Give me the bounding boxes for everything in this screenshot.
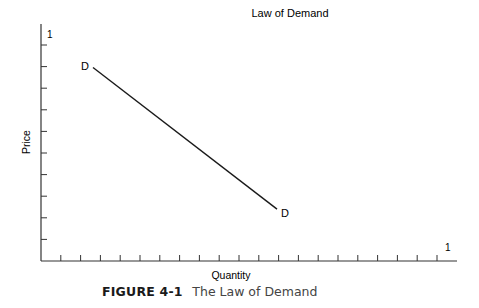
y-axis-label: Price [20,130,32,154]
curve-start-label: D [81,60,89,72]
figure-title: The Law of Demand [192,284,317,299]
x-axis-end-label: 1 [445,242,451,253]
curve-end-label: D [281,207,289,219]
chart-axes [41,24,457,261]
demand-line [93,67,277,209]
figure-number: FIGURE 4-1 [102,284,183,299]
demand-curve: DD [81,60,289,219]
demand-chart: Law of Demand 1 1 Quantity Price DD [0,0,479,308]
x-axis-label: Quantity [211,269,251,281]
y-axis-end-label: 1 [47,29,53,40]
axis-ticks [41,45,437,261]
figure-caption: FIGURE 4-1 The Law of Demand [102,284,317,299]
chart-title: Law of Demand [251,7,328,19]
